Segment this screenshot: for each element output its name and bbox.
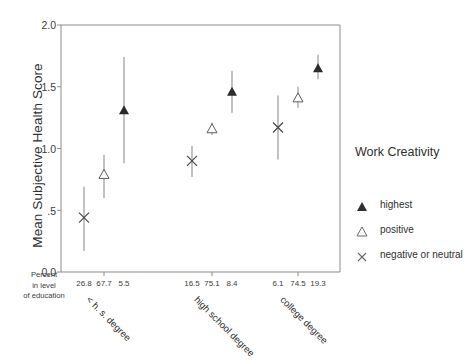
marker-open-triangle — [207, 124, 217, 133]
legend-label-highest: highest — [380, 199, 412, 210]
axis-ticks — [57, 25, 61, 272]
marker-open-triangle — [99, 169, 109, 178]
open-triangle-icon — [355, 225, 371, 239]
data-series-group — [79, 55, 323, 276]
plot-area — [0, 0, 464, 364]
legend-label-negative-or-neutral: negative or neutral — [380, 249, 463, 260]
x-tick-percent-label: 5.5 — [104, 279, 144, 288]
x-tick-percent-label: 8.4 — [212, 279, 252, 288]
marker-filled-triangle — [119, 105, 129, 114]
marker-filled-triangle — [313, 63, 323, 72]
chart-canvas: Mean Subjective Health Score 2.0 1.5 1.0… — [0, 0, 464, 364]
legend-title: Work Creativity — [355, 145, 440, 159]
legend-label-positive: positive — [380, 224, 414, 235]
filled-triangle-icon — [355, 200, 371, 214]
cross-icon — [355, 250, 371, 264]
marker-filled-triangle — [227, 87, 237, 96]
x-tick-percent-label: 19.3 — [298, 279, 338, 288]
marker-open-triangle — [293, 93, 303, 102]
axis-frame — [61, 25, 340, 272]
